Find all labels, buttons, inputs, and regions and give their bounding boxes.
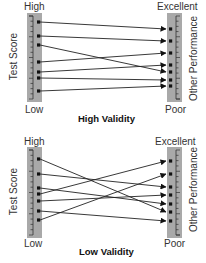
mapping-arrow [40,45,166,72]
test-score-point [37,60,40,63]
performance-point [169,210,172,213]
performance-point [169,39,172,42]
test-score-point [37,34,40,37]
performance-point [169,27,172,30]
test-score-point [37,209,40,212]
mapping-arrow [40,65,166,72]
low-validity-right-axis-label: Other Performance [188,145,199,235]
performance-point [169,70,172,73]
performance-point [169,51,172,54]
high-validity-right-axis-label: Other Performance [188,14,199,104]
test-score-point [37,186,40,189]
test-score-point [37,70,40,73]
performance-point [169,84,172,87]
low-validity-right-bottom-label: Poor [164,238,185,249]
performance-point [169,63,172,66]
performance-point [169,159,172,162]
test-score-point [37,76,40,79]
low-validity-left-top-label: High [24,136,45,147]
mapping-arrow [40,53,166,62]
mapping-arrow [40,78,166,80]
performance-point [169,185,172,188]
low-validity-left-bottom-label: Low [24,238,42,249]
test-score-point [37,43,40,46]
test-score-point [37,157,40,160]
performance-point [169,172,172,175]
test-score-point [37,89,40,92]
mapping-arrow [40,161,166,194]
performance-point [169,219,172,222]
performance-point [169,78,172,81]
test-score-point [37,218,40,221]
test-score-point [37,192,40,195]
mapping-arrow [40,22,166,29]
high-validity-left-top-label: High [24,1,45,12]
high-validity-right-bottom-label: Poor [165,104,186,115]
performance-point [169,193,172,196]
performance-point [169,202,172,205]
test-score-point [37,20,40,23]
validity-diagram [0,0,206,263]
mapping-arrow [40,36,166,41]
mapping-arrow [40,211,166,221]
high-validity-left-bottom-label: Low [25,104,43,115]
high-validity-left-axis-label: Test Score [8,27,19,87]
low-validity-title: Low Validity [79,246,134,257]
test-score-point [37,199,40,202]
test-score-point [37,172,40,175]
high-validity-title: High Validity [78,113,135,124]
low-validity-left-axis-label: Test Score [8,162,19,222]
mapping-arrow [40,86,166,91]
high-validity-right-top-label: Excellent [157,1,198,12]
